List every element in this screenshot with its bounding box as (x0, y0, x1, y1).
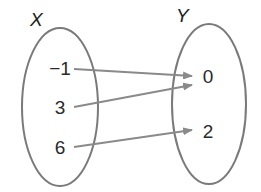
arrow-icon (74, 85, 192, 107)
mapping-diagram: X −1 3 6 Y 0 2 (0, 0, 261, 192)
domain-element: 3 (55, 97, 66, 118)
codomain-element: 2 (203, 121, 214, 142)
domain-set-label: X (29, 9, 44, 30)
domain-set: X −1 3 6 (22, 9, 98, 186)
codomain-ellipse (172, 24, 246, 184)
codomain-element: 0 (203, 66, 214, 87)
codomain-set: Y 0 2 (172, 5, 246, 184)
domain-element: 6 (55, 137, 66, 158)
arrow-icon (74, 130, 192, 147)
codomain-set-label: Y (176, 5, 190, 26)
domain-element: −1 (49, 58, 71, 79)
